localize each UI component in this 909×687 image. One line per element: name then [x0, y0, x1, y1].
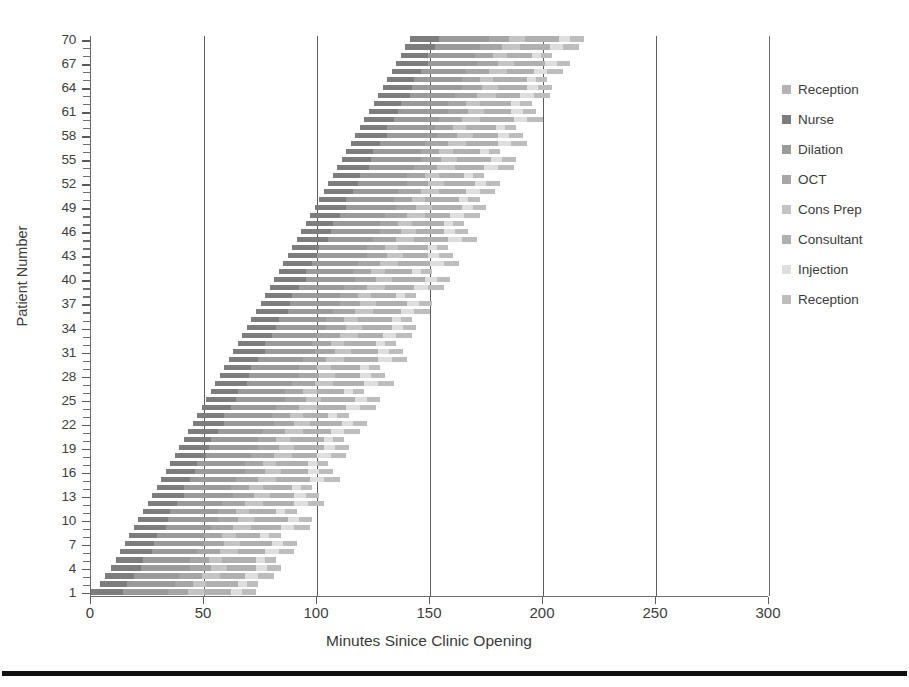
bar-segment [270, 285, 299, 290]
bar-segment [444, 229, 455, 234]
bar-segment [179, 445, 208, 450]
bar-segment [351, 349, 378, 354]
bar-segment [498, 133, 509, 138]
bar-segment [274, 421, 294, 426]
legend-item-dilation-2[interactable]: Dilation [782, 134, 902, 164]
bar-segment [175, 581, 193, 586]
bar-segment [331, 429, 345, 434]
bar-segment [331, 365, 360, 370]
bar-offset-segment [91, 261, 283, 266]
bar-segment [215, 381, 247, 386]
bar-offset-segment [91, 573, 105, 578]
table-row [91, 229, 468, 234]
table-row [91, 197, 480, 202]
y-tick-5 [83, 561, 90, 562]
bar-segment [324, 445, 335, 450]
table-row [91, 517, 312, 522]
bar-segment [520, 44, 549, 49]
bar-segment [310, 477, 324, 482]
legend-swatch-icon [782, 295, 791, 304]
y-tick-49 [82, 208, 90, 210]
bar-segment [364, 117, 393, 122]
bar-segment [509, 36, 525, 41]
legend-item-consultant-5[interactable]: Consultant [782, 224, 902, 254]
bar-segment [197, 461, 244, 466]
bar-segment [462, 237, 478, 242]
bar-segment [204, 589, 231, 594]
legend-swatch-icon [782, 115, 791, 124]
bar-segment [453, 125, 467, 130]
bar-segment [337, 165, 369, 170]
y-tick-45 [83, 240, 90, 241]
legend-item-oct-3[interactable]: OCT [782, 164, 902, 194]
y-tick-label-10: 10 [61, 514, 76, 528]
legend-item-injection-6[interactable]: Injection [782, 254, 902, 284]
bar-offset-segment [91, 333, 242, 338]
bar-segment [326, 317, 344, 322]
bar-offset-segment [91, 173, 333, 178]
bar-segment [154, 541, 204, 546]
bar-segment [396, 205, 416, 210]
table-row [91, 285, 444, 290]
bar-segment [355, 309, 373, 314]
y-tick-29 [83, 369, 90, 370]
x-tick-200 [542, 597, 543, 604]
bar-offset-segment [91, 453, 175, 458]
bar-segment [369, 109, 398, 114]
bar-segment [412, 221, 444, 226]
bar-segment [288, 253, 317, 258]
bar-offset-segment [91, 557, 116, 562]
bar-segment [258, 357, 303, 362]
table-row [91, 397, 380, 402]
bar-segment [157, 533, 204, 538]
bar-segment [245, 501, 263, 506]
bar-segment [299, 517, 313, 522]
bar-offset-segment [91, 549, 120, 554]
bar-segment [455, 165, 484, 170]
legend-item-nurse-1[interactable]: Nurse [782, 104, 902, 134]
bar-segment [437, 133, 457, 138]
bar-segment [414, 237, 448, 242]
bar-segment [482, 85, 498, 90]
bar-segment [360, 301, 376, 306]
bar-segment [324, 437, 333, 442]
y-tick-28 [82, 377, 90, 379]
bar-segment [258, 573, 274, 578]
bar-segment [317, 333, 340, 338]
bar-segment [392, 277, 426, 282]
bar-segment [380, 141, 425, 146]
legend-item-cons-prep-4[interactable]: Cons Prep [782, 194, 902, 224]
bar-segment [328, 237, 373, 242]
bar-segment [369, 365, 380, 370]
bar-segment [251, 317, 278, 322]
bar-offset-segment [91, 413, 197, 418]
y-tick-65 [83, 80, 90, 81]
bar-segment [360, 173, 407, 178]
bar-segment [428, 245, 437, 250]
bar-segment [401, 229, 417, 234]
legend-item-reception-7[interactable]: Reception [782, 284, 902, 314]
table-row [91, 293, 416, 298]
bar-segment [385, 213, 408, 218]
bar-segment [364, 381, 378, 386]
y-tick-22 [82, 425, 90, 427]
bar-segment [437, 165, 455, 170]
bar-segment [281, 469, 308, 474]
bar-segment [392, 317, 401, 322]
bar-segment [303, 357, 326, 362]
bar-segment [317, 365, 331, 370]
bar-segment [437, 277, 451, 282]
bar-segment [222, 557, 256, 562]
legend-item-reception-0[interactable]: Reception [782, 74, 902, 104]
bar-segment [536, 77, 547, 82]
bar-segment [340, 301, 360, 306]
y-tick-40 [82, 280, 90, 282]
y-tick-51 [83, 192, 90, 193]
bar-segment [464, 173, 473, 178]
bar-segment [233, 525, 251, 530]
y-tick-label-7: 7 [69, 538, 76, 552]
bar-segment [265, 557, 276, 562]
legend-swatch-icon [782, 235, 791, 244]
bar-segment [224, 541, 240, 546]
bar-segment [496, 125, 505, 130]
